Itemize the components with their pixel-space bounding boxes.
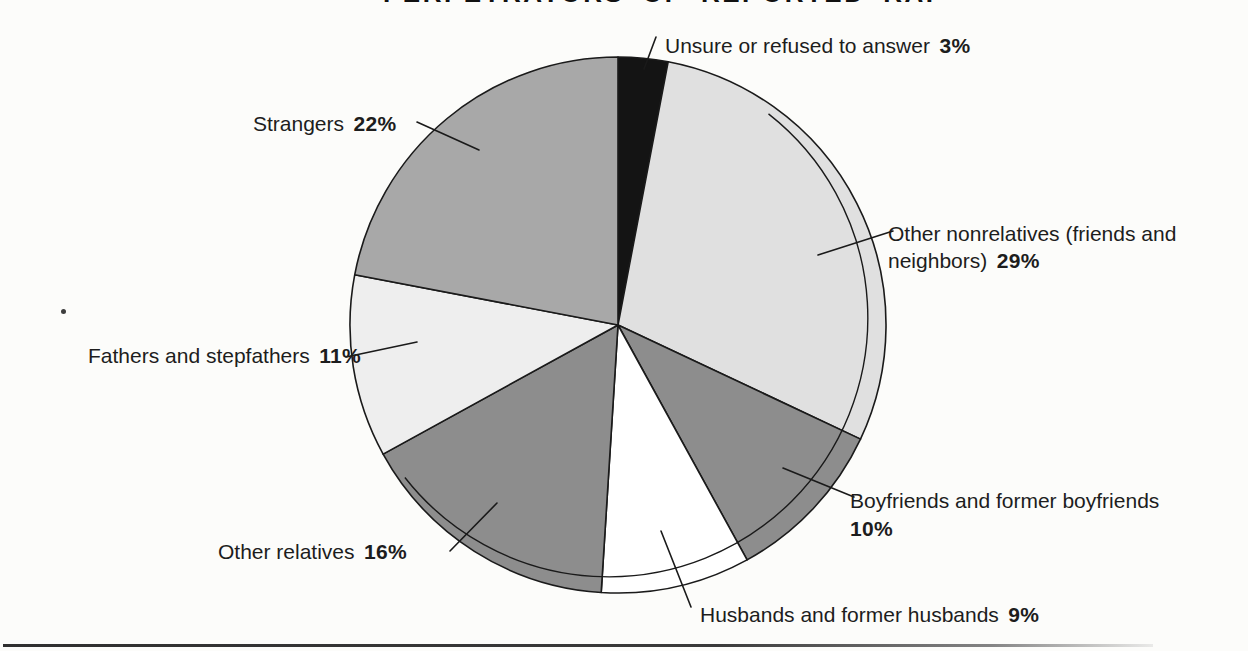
label-other-relatives: Other relatives16% bbox=[218, 538, 407, 565]
label-unsure: Unsure or refused to answer3% bbox=[665, 32, 970, 59]
scanned-page: PERPETRATORS OF REPORTED RAPES Unsure or… bbox=[0, 0, 1248, 651]
label-boyfriends-line1: Boyfriends and former boyfriends bbox=[850, 487, 1159, 515]
label-unsure-text: Unsure or refused to answer bbox=[665, 34, 930, 57]
pie-chart-svg bbox=[0, 0, 1248, 651]
label-fathers-text: Fathers and stepfathers bbox=[88, 344, 310, 367]
label-strangers-pct: 22% bbox=[353, 112, 396, 135]
label-unsure-pct: 3% bbox=[939, 34, 970, 57]
label-fathers-pct: 11% bbox=[319, 344, 361, 367]
label-fathers: Fathers and stepfathers11% bbox=[88, 342, 361, 369]
label-nonrelatives-line2: neighbors) bbox=[888, 249, 987, 272]
pie-slices bbox=[350, 57, 886, 593]
label-strangers: Strangers22% bbox=[253, 110, 396, 137]
label-nonrelatives-line1: Other nonrelatives (friends and bbox=[888, 220, 1176, 247]
scan-speck-dot bbox=[61, 309, 66, 314]
label-husbands-text: Husbands and former husbands bbox=[700, 603, 999, 626]
label-boyfriends: Boyfriends and former boyfriends 10% bbox=[850, 487, 1159, 543]
label-husbands-pct: 9% bbox=[1008, 603, 1039, 626]
label-nonrelatives-pct: 29% bbox=[997, 249, 1040, 272]
label-husbands: Husbands and former husbands9% bbox=[700, 601, 1039, 628]
label-nonrelatives: Other nonrelatives (friends and neighbor… bbox=[888, 220, 1176, 274]
bottom-rule bbox=[3, 644, 1153, 647]
label-boyfriends-pct: 10% bbox=[850, 515, 1159, 543]
label-strangers-text: Strangers bbox=[253, 112, 344, 135]
label-other-relatives-pct: 16% bbox=[364, 540, 407, 563]
label-other-relatives-text: Other relatives bbox=[218, 540, 355, 563]
